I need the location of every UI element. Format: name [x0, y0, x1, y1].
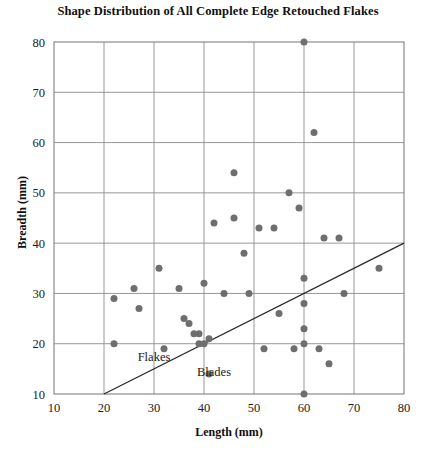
y-tick-label-60: 60	[33, 136, 46, 150]
data-point	[231, 215, 238, 222]
y-tick-label-80: 80	[33, 36, 46, 50]
data-point	[241, 250, 248, 257]
y-axis-tick-labels: 1020304050607080	[33, 36, 46, 402]
data-point	[186, 320, 193, 327]
data-point	[301, 325, 308, 332]
data-point	[296, 204, 303, 211]
x-tick-label-10: 10	[48, 401, 61, 415]
data-point	[231, 169, 238, 176]
annotation-blades: Blades	[197, 365, 231, 379]
plot-frame	[54, 42, 404, 394]
x-tick-label-20: 20	[98, 401, 111, 415]
data-point	[211, 220, 218, 227]
data-point	[341, 290, 348, 297]
x-tick-label-60: 60	[298, 401, 311, 415]
y-axis-label: Breadth (mm)	[15, 143, 30, 283]
data-point	[156, 265, 163, 272]
data-point	[221, 290, 228, 297]
data-point	[291, 345, 298, 352]
data-point	[311, 129, 318, 136]
data-point	[321, 235, 328, 242]
data-point	[376, 265, 383, 272]
annotation-flakes: Flakes	[138, 350, 171, 364]
data-point	[301, 340, 308, 347]
data-point	[316, 345, 323, 352]
data-point	[136, 305, 143, 312]
x-tick-label-80: 80	[398, 401, 411, 415]
y-tick-label-40: 40	[33, 237, 46, 251]
data-point	[301, 39, 308, 46]
data-point	[301, 391, 308, 398]
x-axis-tick-labels: 1020304050607080	[48, 401, 411, 415]
data-point	[201, 340, 208, 347]
y-tick-label-20: 20	[33, 337, 46, 351]
data-point	[261, 345, 268, 352]
data-point	[336, 235, 343, 242]
data-point	[326, 360, 333, 367]
data-point	[111, 340, 118, 347]
x-axis-label: Length (mm)	[54, 425, 404, 440]
x-tick-label-70: 70	[348, 401, 361, 415]
data-point	[286, 189, 293, 196]
data-point	[206, 335, 213, 342]
data-point	[196, 330, 203, 337]
y-tick-label-30: 30	[33, 287, 46, 301]
data-point	[111, 295, 118, 302]
chart-annotations: FlakesBlades	[138, 350, 231, 379]
chart-figure: Shape Distribution of All Complete Edge …	[0, 0, 423, 451]
y-tick-label-10: 10	[33, 388, 46, 402]
data-point	[181, 315, 188, 322]
data-point	[271, 225, 278, 232]
x-tick-label-50: 50	[248, 401, 261, 415]
data-point	[176, 285, 183, 292]
y-tick-label-50: 50	[33, 186, 46, 200]
x-tick-label-30: 30	[148, 401, 161, 415]
y-tick-label-70: 70	[33, 86, 46, 100]
data-point	[256, 225, 263, 232]
data-point	[301, 275, 308, 282]
data-point	[276, 310, 283, 317]
x-tick-label-40: 40	[198, 401, 211, 415]
scatter-plot-canvas: 1020304050607080 1020304050607080 Flakes…	[0, 0, 423, 451]
gridlines	[54, 42, 404, 394]
data-point	[301, 300, 308, 307]
data-point	[246, 290, 253, 297]
data-point	[131, 285, 138, 292]
data-point	[201, 280, 208, 287]
